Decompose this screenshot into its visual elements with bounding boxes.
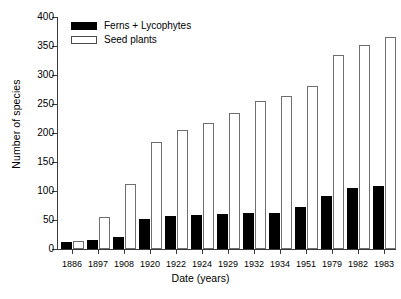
bar-ferns-1932 [243, 213, 254, 249]
bar-ferns-1924 [191, 215, 202, 249]
x-tick-label-1934: 1934 [267, 258, 293, 270]
y-axis-title: Number of species [10, 64, 22, 184]
x-tick-1983 [384, 249, 385, 254]
x-tick-label-1897: 1897 [85, 258, 111, 270]
bar-seed-plants-1920 [151, 142, 162, 249]
legend-label-ferns: Ferns + Lycophytes [104, 20, 191, 32]
x-tick-label-1951: 1951 [293, 258, 319, 270]
x-tick-1908 [124, 249, 125, 254]
legend-label-seed-plants: Seed plants [104, 34, 157, 46]
x-axis-title: Date (years) [0, 272, 401, 284]
bar-ferns-1982 [347, 188, 358, 249]
x-tick-1897 [98, 249, 99, 254]
x-tick-label-1924: 1924 [189, 258, 215, 270]
bar-chart: Number of species 0501001502002503003504… [0, 0, 401, 299]
y-tick-label-0: 0 [48, 242, 54, 255]
y-tick-label-150: 150 [37, 155, 54, 168]
plot-area: 050100150200250300350400 188618971908192… [57, 17, 395, 249]
bar-ferns-1922 [165, 216, 176, 249]
x-tick-label-1932: 1932 [241, 258, 267, 270]
legend-swatch-seed-plants-icon [71, 36, 97, 44]
legend-item-seed-plants: Seed plants [71, 33, 191, 46]
bar-seed-plants-1908 [125, 184, 136, 249]
x-tick-label-1979: 1979 [319, 258, 345, 270]
bar-ferns-1908 [113, 237, 124, 249]
y-tick-label-100: 100 [37, 184, 54, 197]
bar-seed-plants-1934 [281, 96, 292, 249]
x-tick-1929 [228, 249, 229, 254]
legend-swatch-ferns-icon [71, 22, 97, 30]
x-tick-1982 [358, 249, 359, 254]
x-tick-label-1982: 1982 [345, 258, 371, 270]
bar-seed-plants-1897 [99, 217, 110, 249]
x-tick-1922 [176, 249, 177, 254]
bar-ferns-1934 [269, 213, 280, 249]
y-tick-label-250: 250 [37, 97, 54, 110]
bar-seed-plants-1886 [73, 241, 84, 249]
y-axis-line [57, 17, 58, 249]
x-tick-label-1983: 1983 [371, 258, 397, 270]
bar-ferns-1886 [61, 242, 72, 249]
y-tick-label-50: 50 [43, 213, 54, 226]
bar-ferns-1929 [217, 214, 228, 249]
bar-seed-plants-1929 [229, 113, 240, 249]
x-tick-label-1929: 1929 [215, 258, 241, 270]
x-tick-1979 [332, 249, 333, 254]
x-tick-1920 [150, 249, 151, 254]
bar-seed-plants-1951 [307, 86, 318, 249]
x-tick-1924 [202, 249, 203, 254]
x-tick-label-1908: 1908 [111, 258, 137, 270]
x-tick-label-1920: 1920 [137, 258, 163, 270]
x-tick-1932 [254, 249, 255, 254]
bar-seed-plants-1982 [359, 45, 370, 249]
y-tick-label-200: 200 [37, 126, 54, 139]
bar-ferns-1897 [87, 240, 98, 249]
bar-seed-plants-1979 [333, 55, 344, 249]
bar-seed-plants-1924 [203, 123, 214, 249]
x-tick-1951 [306, 249, 307, 254]
x-tick-1886 [72, 249, 73, 254]
bar-ferns-1920 [139, 219, 150, 249]
bar-seed-plants-1983 [385, 37, 396, 249]
y-tick-label-400: 400 [37, 10, 54, 23]
legend-item-ferns: Ferns + Lycophytes [71, 19, 191, 32]
x-axis-line [57, 249, 396, 250]
bar-seed-plants-1922 [177, 130, 188, 249]
bar-ferns-1983 [373, 186, 384, 249]
y-tick-label-350: 350 [37, 39, 54, 52]
bar-ferns-1951 [295, 207, 306, 249]
x-tick-label-1922: 1922 [163, 258, 189, 270]
bar-seed-plants-1932 [255, 101, 266, 249]
bar-ferns-1979 [321, 196, 332, 249]
legend: Ferns + Lycophytes Seed plants [71, 19, 191, 47]
x-tick-label-1886: 1886 [59, 258, 85, 270]
x-tick-1934 [280, 249, 281, 254]
y-tick-label-300: 300 [37, 68, 54, 81]
